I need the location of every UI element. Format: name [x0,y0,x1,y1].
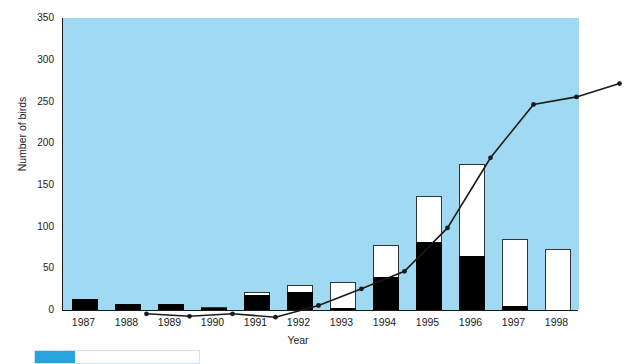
y-tick-label-200: 200 [6,138,54,148]
caption-number-tag [35,351,75,363]
y-tick-label-0: 0 [6,305,54,315]
y-tick-label-50: 50 [6,263,54,273]
line-marker-1992 [359,286,364,291]
line-marker-1994 [445,226,450,231]
line-marker-1997 [574,95,579,100]
y-tick-label-300: 300 [6,55,54,65]
y-tick-label-250: 250 [6,97,54,107]
x-axis-title: Year [0,334,596,346]
y-tick-label-350: 350 [6,13,54,23]
line-series [125,36,626,328]
y-tick-label-100: 100 [6,222,54,232]
bar-1987 [72,299,98,310]
line-marker-1998 [617,81,622,86]
figure-caption [34,350,200,364]
plot-area [62,18,579,310]
bar-black-segment-1987 [72,299,98,310]
line-marker-1991 [316,303,321,308]
line-marker-1996 [531,102,536,107]
y-tick-label-150: 150 [6,180,54,190]
x-tick-label-1998: 1998 [532,316,582,328]
line-marker-1993 [402,269,407,274]
line-marker-1995 [488,155,493,160]
y-axis-title: Number of birds [16,74,28,194]
x-axis-baseline [62,310,578,311]
